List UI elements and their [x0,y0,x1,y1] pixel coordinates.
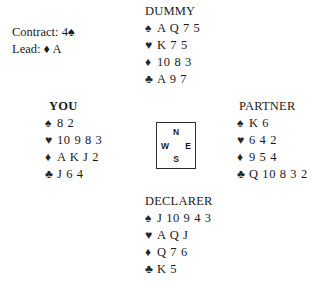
hand-declarer-label: DECLARER [145,194,213,209]
hand-dummy-label: DUMMY [145,4,200,19]
hand-partner-diamonds: 9 5 4 [249,149,277,166]
hand-dummy: DUMMY ♠ A Q 7 5 ♥ K 7 5 ♦ 10 8 3 ♣ A 9 7 [145,4,200,88]
hand-partner-diamonds-row: ♦ 9 5 4 [237,149,308,166]
club-icon: ♣ [145,261,157,278]
heart-icon: ♥ [237,132,249,149]
hand-dummy-spades: A Q 7 5 [157,20,200,37]
heart-icon: ♥ [145,37,157,54]
heart-icon: ♥ [45,132,57,149]
hand-declarer-spades: J 10 9 4 3 [157,210,212,227]
contract-info: Contract: 4♠ Lead: ♦ A [12,24,75,58]
hand-you-spades-row: ♠ 8 2 [45,115,102,132]
hand-dummy-diamonds: 10 8 3 [157,54,192,71]
hand-partner: PARTNER ♠ K 6 ♥ 6 4 2 ♦ 9 5 4 ♣ Q 10 8 3… [237,99,308,183]
hand-partner-label: PARTNER [237,99,308,114]
hand-partner-hearts: 6 4 2 [249,132,277,149]
hand-dummy-hearts-row: ♥ K 7 5 [145,37,200,54]
club-icon: ♣ [45,166,57,183]
hand-you-clubs: J 6 4 [57,166,84,183]
hand-declarer-spades-row: ♠ J 10 9 4 3 [145,210,213,227]
hand-declarer-clubs-row: ♣ K 5 [145,261,213,278]
hand-declarer-clubs: K 5 [157,261,177,278]
hand-dummy-diamonds-row: ♦ 10 8 3 [145,54,200,71]
contract-line: Contract: 4♠ [12,24,75,41]
hand-declarer-hearts: A Q J [157,227,188,244]
hand-dummy-clubs-row: ♣ A 9 7 [145,71,200,88]
hand-partner-spades: K 6 [249,115,269,132]
diamond-icon: ♦ [237,149,249,166]
hand-you-spades: 8 2 [57,115,74,132]
compass-box: N W E S [156,122,196,169]
hand-declarer-diamonds-row: ♦ Q 7 6 [145,244,213,261]
hand-you-hearts-row: ♥ 10 9 8 3 [45,132,102,149]
compass-east-label: E [185,141,191,150]
hand-you-label: YOU [45,99,102,114]
club-icon: ♣ [145,71,157,88]
hand-partner-clubs: Q 10 8 3 2 [249,166,308,183]
hand-declarer-diamonds: Q 7 6 [157,244,188,261]
hand-you-clubs-row: ♣ J 6 4 [45,166,102,183]
spade-icon: ♠ [145,210,157,227]
lead-line: Lead: ♦ A [12,41,75,58]
diamond-icon: ♦ [45,149,57,166]
hand-you-hearts: 10 9 8 3 [57,132,102,149]
hand-you: YOU ♠ 8 2 ♥ 10 9 8 3 ♦ A K J 2 ♣ J 6 4 [45,99,102,183]
hand-you-diamonds: A K J 2 [57,149,99,166]
hand-dummy-spades-row: ♠ A Q 7 5 [145,20,200,37]
hand-dummy-clubs: A 9 7 [157,71,187,88]
spade-icon: ♠ [45,115,57,132]
club-icon: ♣ [237,166,249,183]
compass-north-label: N [173,128,179,137]
compass-south-label: S [173,155,179,164]
hand-dummy-hearts: K 7 5 [157,37,188,54]
hand-declarer-hearts-row: ♥ A Q J [145,227,213,244]
hand-partner-hearts-row: ♥ 6 4 2 [237,132,308,149]
spade-icon: ♠ [145,20,157,37]
diamond-icon: ♦ [145,244,157,261]
heart-icon: ♥ [145,227,157,244]
compass-west-label: W [161,141,169,150]
spade-icon: ♠ [237,115,249,132]
hand-you-diamonds-row: ♦ A K J 2 [45,149,102,166]
hand-partner-spades-row: ♠ K 6 [237,115,308,132]
diamond-icon: ♦ [145,54,157,71]
hand-declarer: DECLARER ♠ J 10 9 4 3 ♥ A Q J ♦ Q 7 6 ♣ … [145,194,213,278]
hand-partner-clubs-row: ♣ Q 10 8 3 2 [237,166,308,183]
